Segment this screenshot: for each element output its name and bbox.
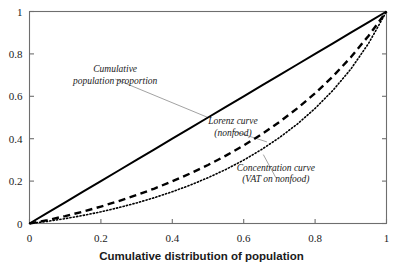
x-tick-label: 0 — [27, 232, 33, 244]
plot-canvas — [0, 0, 403, 270]
annotation-line: Lorenz curve — [208, 116, 258, 128]
y-tick-label: 0.8 — [9, 48, 23, 60]
chart-figure: 00.20.40.60.81 00.20.40.60.81 Cumulative… — [0, 0, 403, 270]
x-axis-title: Cumulative distribution of population — [0, 250, 403, 262]
x-tick-label: 0.4 — [165, 232, 179, 244]
annotation-lorenz-curve: Lorenz curve(nonfood) — [208, 116, 258, 139]
annotation-line: Concentration curve — [237, 163, 315, 175]
y-tick-label: 0.2 — [9, 175, 23, 187]
annotation-concentration-curve: Concentration curve(VAT on nonfood) — [237, 163, 315, 186]
annotation-line: (nonfood) — [208, 128, 258, 140]
y-tick-label: 1 — [17, 6, 23, 18]
y-tick-label: 0.4 — [9, 133, 23, 145]
y-tick-label: 0 — [17, 218, 23, 230]
annotation-cumulative-population-proportion: Cumulativepopulation proportion — [73, 64, 157, 87]
annotation-line: population proportion — [73, 76, 157, 88]
annotation-line: (VAT on nonfood) — [237, 174, 315, 186]
x-tick-label: 0.2 — [94, 232, 108, 244]
x-tick-label: 1 — [384, 232, 390, 244]
annotation-line: Cumulative — [73, 64, 157, 76]
x-tick-label: 0.8 — [308, 232, 322, 244]
x-tick-label: 0.6 — [237, 232, 251, 244]
y-tick-label: 0.6 — [9, 90, 23, 102]
